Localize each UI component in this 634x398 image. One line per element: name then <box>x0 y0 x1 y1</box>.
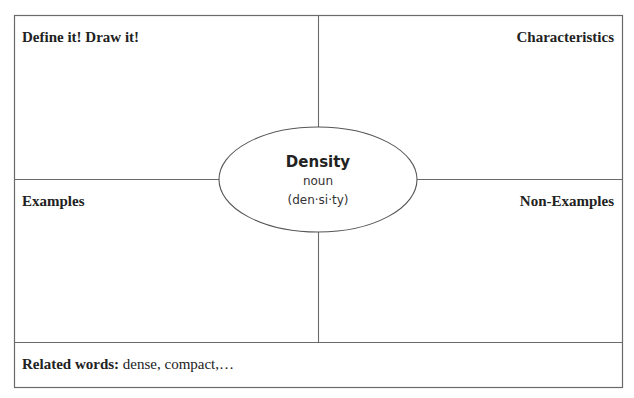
quadrant-label-define: Define it! Draw it! <box>22 30 139 45</box>
quadrant-label-characteristics: Characteristics <box>517 30 614 45</box>
frayer-model-organizer: Define it! Draw it! Characteristics Exam… <box>0 0 634 398</box>
quadrant-label-non-examples: Non-Examples <box>520 194 614 209</box>
related-words-row: Related words: dense, compact,… <box>22 357 234 372</box>
center-term-block: Density noun (den·si·ty) <box>219 127 417 232</box>
related-words-value: dense, compact,… <box>119 356 234 372</box>
quadrant-label-examples: Examples <box>22 194 85 209</box>
part-of-speech: noun <box>303 172 333 191</box>
syllable-breakdown: (den·si·ty) <box>288 191 349 210</box>
related-words-label: Related words: <box>22 356 119 372</box>
vocabulary-term: Density <box>286 152 350 172</box>
